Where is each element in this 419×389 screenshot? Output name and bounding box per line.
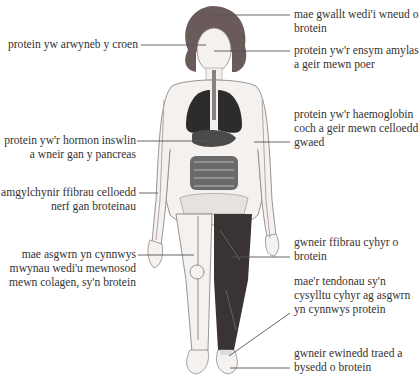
- label-line: mewn colagen, sy'n brotein: [9, 276, 136, 290]
- label-insulin: protein yw'r hormon inswlin a wneir gan …: [4, 134, 136, 162]
- label-line: nerf gan broteinau: [1, 200, 136, 214]
- label-muscle: gwneir ffibrau cyhyr o brotein: [294, 236, 398, 264]
- label-line: protein yw'r hormon inswlin: [4, 134, 136, 148]
- label-skin: protein yw arwyneb y croen: [8, 38, 138, 52]
- label-line: protein yw'r haemoglobin: [294, 108, 418, 122]
- right-leg-muscle: [214, 214, 252, 350]
- label-nails: gwneir ewinedd traed a bysedd o brotein: [294, 347, 402, 375]
- label-line: brotein: [294, 250, 398, 264]
- label-hair: mae gwallt wedi'i wneud o brotein: [294, 8, 418, 36]
- right-arm: [256, 86, 276, 242]
- label-line: bysedd o brotein: [294, 361, 402, 375]
- label-line: mae'r tendonau sy'n: [294, 275, 410, 289]
- right-hand: [265, 234, 278, 256]
- left-hand: [148, 240, 163, 268]
- pelvis: [180, 194, 248, 215]
- label-line: gwneir ffibrau cyhyr o: [294, 236, 398, 250]
- intestines: [190, 156, 238, 190]
- label-line: protein yw arwyneb y croen: [8, 38, 138, 52]
- label-line: amgylchynir ffibrau celloedd: [1, 186, 136, 200]
- tendon: [220, 350, 232, 355]
- left-foot: [187, 350, 209, 374]
- label-line: yn cynnwys protein: [294, 303, 410, 317]
- label-line: gwneir ewinedd traed a: [294, 347, 402, 361]
- left-leg-skeleton: [176, 214, 212, 352]
- trachea: [212, 70, 216, 120]
- label-tendon: mae'r tendonau sy'n cysylltu cyhyr ag as…: [294, 275, 410, 317]
- label-line: a geir mewn poer: [294, 58, 419, 72]
- label-line: mae gwallt wedi'i wneud o: [294, 8, 418, 22]
- left-arm: [152, 86, 172, 250]
- label-haemoglobin: protein yw'r haemoglobin coch a geir mew…: [294, 108, 418, 150]
- body-protein-diagram: protein yw arwyneb y croen protein yw'r …: [0, 0, 419, 389]
- label-line: cysylltu cyhyr ag asgwrn: [294, 289, 410, 303]
- face: [197, 28, 231, 72]
- label-line: a wneir gan y pancreas: [4, 148, 136, 162]
- label-line: brotein: [294, 22, 418, 36]
- label-nerve: amgylchynir ffibrau celloedd nerf gan br…: [1, 186, 136, 214]
- label-line: gwaed: [294, 136, 418, 150]
- label-amylase: protein yw'r ensym amylas a geir mewn po…: [294, 44, 419, 72]
- knee-cap: [190, 265, 204, 279]
- label-line: mwynau wedi'u mewnosod: [9, 262, 136, 276]
- label-line: protein yw'r ensym amylas: [294, 44, 419, 58]
- label-line: mae asgwrn yn cynnwys: [9, 248, 136, 262]
- label-line: coch a geir mewn celloedd: [294, 122, 418, 136]
- label-bone: mae asgwrn yn cynnwys mwynau wedi'u mewn…: [9, 248, 136, 290]
